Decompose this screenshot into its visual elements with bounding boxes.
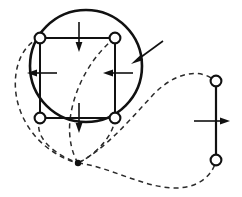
right-assembly: [194, 76, 230, 166]
trajectory-center-vertical-sweep: [70, 38, 115, 163]
force-arrow-link-horizontal-right: [194, 118, 230, 125]
figure-container: [0, 0, 242, 197]
trajectory-inner-left-sweep: [39, 118, 78, 163]
outer-circle: [30, 10, 142, 122]
node-top-left: [35, 33, 46, 44]
circle-leader-arrow: [131, 41, 163, 64]
mechanism-diagram: [0, 0, 242, 197]
node-link-lower: [211, 155, 222, 166]
node-bottom-left: [35, 113, 46, 124]
trajectory-convergence-point: [75, 160, 81, 166]
trajectory-long-right-loop-lower: [78, 161, 216, 188]
node-top-right: [110, 33, 121, 44]
node-link-upper: [211, 76, 222, 87]
left-assembly: [27, 10, 163, 133]
force-arrow-right-horizontal-left: [103, 70, 133, 77]
node-bottom-right: [110, 113, 121, 124]
square-linkage: [40, 38, 115, 118]
